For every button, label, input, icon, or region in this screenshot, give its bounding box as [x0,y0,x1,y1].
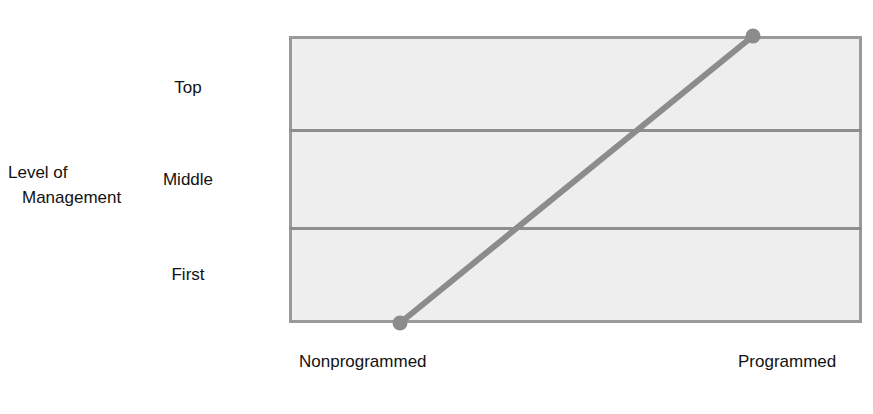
y-tick-label-top: Top [108,78,268,98]
y-axis-title-line-1: Level of [8,163,68,182]
plot-area [289,36,862,323]
plot-graphics [289,36,862,323]
trend-line [400,36,753,323]
x-axis-label-programmed: Programmed [738,352,836,372]
figure-title [0,0,873,4]
x-axis-label-nonprogrammed: Nonprogrammed [299,352,427,372]
y-tick-label-middle: Middle [108,170,268,190]
data-point-programmed [746,29,761,44]
data-point-nonprogrammed [393,316,408,331]
y-tick-label-first: First [108,265,268,285]
